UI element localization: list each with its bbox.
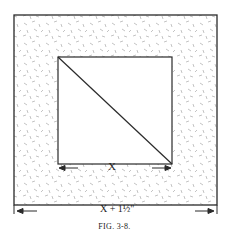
figure-caption: FIG. 3-8. <box>0 222 229 231</box>
inner-dimension-label: X <box>108 160 116 172</box>
outer-dimension-label: X + 1½" <box>100 203 134 214</box>
